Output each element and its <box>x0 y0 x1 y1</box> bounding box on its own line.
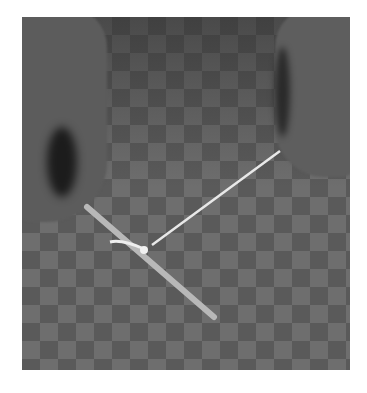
string <box>152 151 280 245</box>
knot <box>140 246 148 254</box>
stick-and-string <box>22 17 350 370</box>
photo <box>22 17 350 370</box>
stick <box>87 207 214 317</box>
